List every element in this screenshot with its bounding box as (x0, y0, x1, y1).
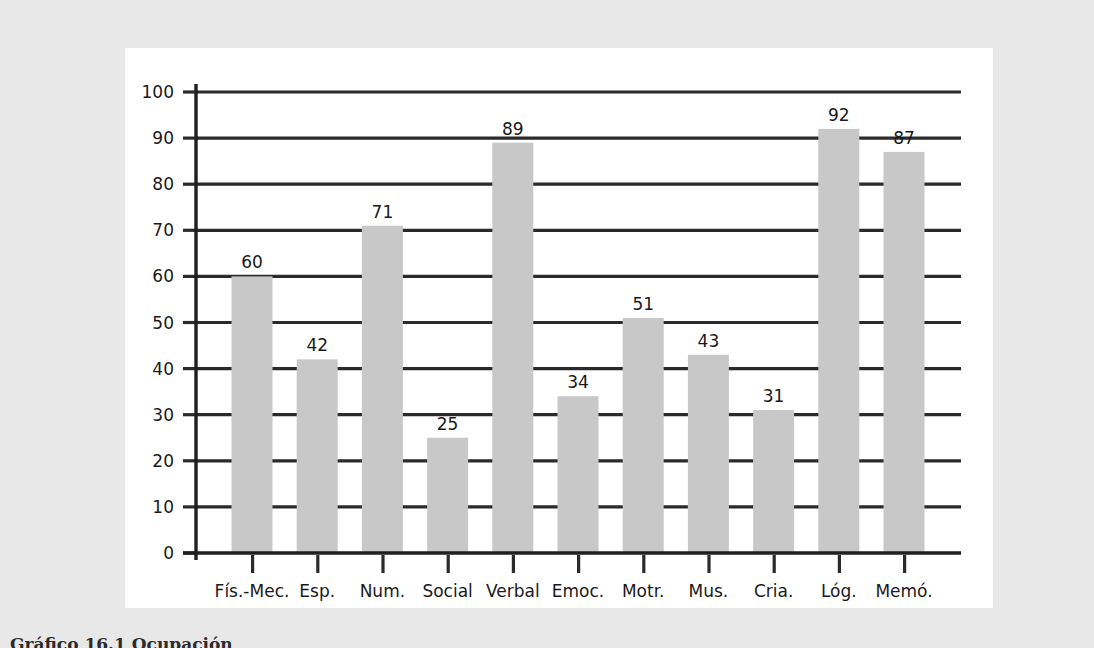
x-axis-category-label: Fís.-Mec. (215, 581, 290, 601)
bar (818, 129, 859, 553)
y-axis-tick-label: 50 (152, 313, 174, 333)
bar (492, 143, 533, 553)
x-axis-category-label: Num. (360, 581, 405, 601)
bars-group (232, 129, 925, 553)
bar-value-label: 51 (632, 294, 654, 314)
value-labels-group: 6042712589345143319287 (241, 105, 915, 434)
figure-panel: 0102030405060708090100 60427125893451433… (125, 48, 993, 608)
bar (232, 276, 273, 553)
bar (297, 359, 338, 553)
bar-value-label: 25 (437, 414, 459, 434)
bar (753, 410, 794, 553)
bar-value-label: 42 (306, 335, 328, 355)
chart-svg: 0102030405060708090100 60427125893451433… (125, 48, 993, 608)
bar-value-label: 60 (241, 252, 263, 272)
figure-caption: Gráfico 16.1 Ocupación (10, 634, 710, 648)
category-labels-group: Fís.-Mec.Esp.Num.SocialVerbalEmoc.Motr.M… (215, 581, 933, 601)
x-axis-category-label: Lóg. (821, 581, 857, 601)
bar-value-label: 34 (567, 372, 589, 392)
bar-value-label: 43 (698, 331, 720, 351)
bar-chart: 0102030405060708090100 60427125893451433… (125, 48, 993, 608)
y-axis-tick-label: 20 (152, 451, 174, 471)
page-background: 0102030405060708090100 60427125893451433… (0, 0, 1094, 648)
bar-value-label: 89 (502, 119, 524, 139)
y-axis-tick-label: 0 (163, 543, 174, 563)
x-axis-category-label: Mus. (689, 581, 729, 601)
bar (884, 152, 925, 553)
x-axis-category-label: Emoc. (552, 581, 604, 601)
x-axis-category-label: Motr. (622, 581, 665, 601)
y-axis-tick-label: 90 (152, 128, 174, 148)
x-axis-category-label: Social (422, 581, 472, 601)
bar (427, 438, 468, 553)
x-axis-ticks-group (253, 555, 905, 573)
y-axis-tick-label: 80 (152, 174, 174, 194)
y-axis-tick-label: 60 (152, 266, 174, 286)
bar (558, 396, 599, 553)
bar-value-label: 87 (893, 128, 915, 148)
bar-value-label: 92 (828, 105, 850, 125)
x-axis-category-label: Cria. (754, 581, 793, 601)
y-axis-tick-label: 70 (152, 220, 174, 240)
bar-value-label: 71 (372, 202, 394, 222)
y-axis-tick-label: 100 (142, 82, 174, 102)
y-axis-tick-label: 30 (152, 405, 174, 425)
y-axis-tick-label: 10 (152, 497, 174, 517)
bar-value-label: 31 (763, 386, 785, 406)
x-axis-category-label: Memó. (875, 581, 932, 601)
x-axis-category-label: Verbal (486, 581, 540, 601)
bar (688, 355, 729, 553)
y-axis-tick-labels-group: 0102030405060708090100 (142, 82, 174, 563)
bar (362, 226, 403, 553)
x-axis-category-label: Esp. (299, 581, 335, 601)
bar (623, 318, 664, 553)
y-axis-tick-label: 40 (152, 359, 174, 379)
